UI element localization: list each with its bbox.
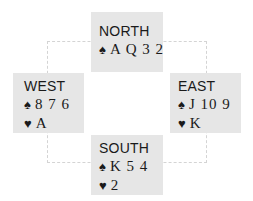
- hand-east: EAST ♠J 10 9 ♥K: [170, 73, 241, 133]
- holding-north-spades: ♠A Q 3 2: [99, 40, 163, 59]
- seat-label-north: NORTH: [99, 23, 163, 40]
- spade-icon: ♠: [99, 159, 107, 174]
- cards-south-spades: K 5 4: [110, 158, 148, 174]
- hand-north: NORTH ♠A Q 3 2: [91, 12, 163, 72]
- hand-south: SOUTH ♠K 5 4 ♥2: [91, 135, 163, 195]
- holding-east-hearts: ♥K: [178, 114, 241, 133]
- heart-icon: ♥: [178, 116, 187, 131]
- seat-label-east: EAST: [178, 78, 241, 95]
- holding-south-hearts: ♥2: [99, 176, 163, 195]
- spade-icon: ♠: [178, 97, 186, 112]
- holding-west-spades: ♠8 7 6: [24, 95, 84, 114]
- cards-north-spades: A Q 3 2: [110, 41, 164, 57]
- spade-icon: ♠: [24, 97, 32, 112]
- heart-icon: ♥: [99, 178, 108, 193]
- cards-east-spades: J 10 9: [189, 96, 231, 112]
- hand-west: WEST ♠8 7 6 ♥A: [13, 73, 84, 133]
- holding-west-hearts: ♥A: [24, 114, 84, 133]
- cards-east-hearts: K: [190, 115, 202, 131]
- spade-icon: ♠: [99, 42, 107, 57]
- holding-south-spades: ♠K 5 4: [99, 157, 163, 176]
- cards-south-hearts: 2: [111, 177, 120, 193]
- seat-label-west: WEST: [24, 78, 84, 95]
- cards-west-spades: 8 7 6: [35, 96, 70, 112]
- cards-west-hearts: A: [36, 115, 48, 131]
- heart-icon: ♥: [24, 116, 33, 131]
- seat-label-south: SOUTH: [99, 140, 163, 157]
- holding-east-spades: ♠J 10 9: [178, 95, 241, 114]
